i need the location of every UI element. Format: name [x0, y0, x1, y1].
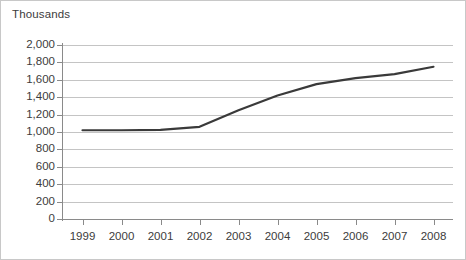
x-tick-mark — [122, 220, 123, 225]
gridline — [63, 167, 453, 168]
x-tick-mark — [278, 220, 279, 225]
y-tick-mark — [57, 115, 62, 116]
x-tick-label: 2000 — [109, 230, 135, 242]
y-tick-mark — [57, 45, 62, 46]
y-tick-label: 1,000 — [7, 125, 55, 137]
gridline — [63, 132, 453, 133]
x-tick-label: 2001 — [148, 230, 174, 242]
gridline — [63, 149, 453, 150]
y-tick-label: 400 — [7, 177, 55, 189]
x-tick-label: 2005 — [304, 230, 330, 242]
x-tick-mark — [434, 220, 435, 225]
y-tick-label: 600 — [7, 160, 55, 172]
gridline — [63, 80, 453, 81]
gridline — [63, 97, 453, 98]
y-tick-mark — [57, 132, 62, 133]
y-tick-label: 2,000 — [7, 38, 55, 50]
line-chart: Thousands 02004006008001,0001,2001,4001,… — [0, 0, 466, 260]
y-axis-tick-labels: 02004006008001,0001,2001,4001,6001,8002,… — [1, 1, 55, 260]
x-tick-label: 1999 — [70, 230, 96, 242]
x-tick-label: 2003 — [226, 230, 252, 242]
y-tick-label: 1,400 — [7, 90, 55, 102]
x-axis-line — [63, 219, 453, 220]
y-tick-mark — [57, 149, 62, 150]
x-tick-mark — [161, 220, 162, 225]
y-tick-label: 800 — [7, 142, 55, 154]
x-tick-label: 2006 — [343, 230, 369, 242]
x-tick-mark — [395, 220, 396, 225]
y-tick-label: 1,800 — [7, 55, 55, 67]
gridline — [63, 202, 453, 203]
plot-area — [63, 45, 453, 219]
y-tick-mark — [57, 80, 62, 81]
y-tick-mark — [57, 62, 62, 63]
y-tick-label: 1,600 — [7, 73, 55, 85]
y-tick-label: 0 — [7, 212, 55, 224]
y-tick-mark — [57, 184, 62, 185]
x-tick-label: 2004 — [265, 230, 291, 242]
gridline — [63, 115, 453, 116]
x-tick-mark — [317, 220, 318, 225]
y-tick-mark — [57, 219, 62, 220]
gridline — [63, 184, 453, 185]
gridline — [63, 62, 453, 63]
x-tick-label: 2007 — [382, 230, 408, 242]
y-tick-mark — [57, 202, 62, 203]
x-tick-mark — [356, 220, 357, 225]
y-tick-mark — [57, 97, 62, 98]
x-tick-label: 2002 — [187, 230, 213, 242]
y-tick-mark — [57, 167, 62, 168]
x-tick-mark — [239, 220, 240, 225]
x-tick-mark — [83, 220, 84, 225]
gridline — [63, 45, 453, 46]
x-tick-label: 2008 — [421, 230, 447, 242]
x-tick-mark — [200, 220, 201, 225]
y-tick-label: 1,200 — [7, 108, 55, 120]
y-tick-label: 200 — [7, 195, 55, 207]
